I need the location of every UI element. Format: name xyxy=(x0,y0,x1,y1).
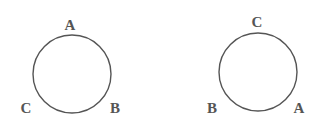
left-label-bottom-left: C xyxy=(21,100,32,116)
left-circle-diagram: A C B xyxy=(21,17,120,116)
left-circle xyxy=(33,35,111,113)
left-label-top: A xyxy=(65,17,76,33)
right-label-top: C xyxy=(252,14,263,30)
diagram-canvas: A C B C B A xyxy=(0,0,312,123)
left-label-bottom-right: B xyxy=(110,100,120,116)
right-circle xyxy=(219,33,297,111)
right-label-bottom-right: A xyxy=(294,100,305,116)
right-circle-diagram: C B A xyxy=(207,14,305,116)
right-label-bottom-left: B xyxy=(207,100,217,116)
